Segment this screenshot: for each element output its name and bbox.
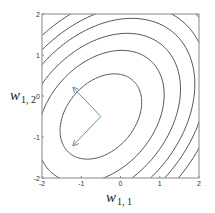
y-axis-label: w1, 2 [10,87,36,105]
plot-frame [42,14,199,178]
y-tick-label: -1 [34,134,40,141]
x-tick-label: 0 [119,180,123,187]
x-tick-label: 1 [158,180,162,187]
contour-chart: -2-1012 -2-1012 w1, 1 w1, 2 [0,0,215,213]
x-tick-label: 2 [197,180,201,187]
y-tick-label: -2 [34,175,40,182]
contour-level-6 [0,0,215,213]
eigenvector-arrow-2 [73,117,100,146]
x-tick-label: -1 [78,180,84,187]
contour-lines [0,0,215,213]
y-tick-label: 0 [36,93,40,100]
y-tick-label: 2 [36,11,40,18]
eigenvector-arrows [73,88,100,145]
eigenvector-arrow-1 [73,88,100,117]
contour-level-4 [7,18,195,213]
x-axis-label: w1, 1 [106,189,132,207]
y-tick-label: 1 [36,52,40,59]
